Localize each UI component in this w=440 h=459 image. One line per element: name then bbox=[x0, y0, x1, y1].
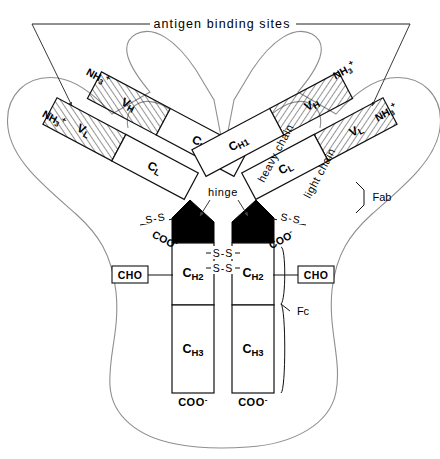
amino-terminus-right-heavy: NH3+ bbox=[330, 58, 359, 84]
outer-silhouette-path bbox=[8, 31, 440, 448]
hinge-ss-label-1: S-S bbox=[213, 247, 234, 259]
antibody-svg-canvas: antigen binding sites VL CL VH CH1 VH CH… bbox=[0, 0, 440, 459]
hinge-shape-right bbox=[232, 200, 274, 243]
hinge-ss-label-2: S-S bbox=[213, 262, 234, 274]
carboxyl-terminus-right-heavy: COO- bbox=[238, 395, 268, 408]
molecule-outline bbox=[8, 31, 440, 448]
fab-bracket-path bbox=[356, 182, 364, 213]
carbohydrate-right: CHO bbox=[273, 266, 334, 283]
coo-label-right-heavy: COO- bbox=[238, 395, 268, 408]
antigen-binding-sites-label: antigen binding sites bbox=[153, 17, 290, 31]
antibody-diagram-figure: antigen binding sites VL CL VH CH1 VH CH… bbox=[0, 0, 440, 459]
hinge-shape-left bbox=[172, 200, 214, 243]
carbohydrate-left: CHO bbox=[112, 266, 173, 283]
heavy-light-disulfide-left: S-S bbox=[140, 210, 173, 225]
abs-arrow-right bbox=[372, 24, 410, 106]
heavy-light-disulfide-right: S-S bbox=[273, 210, 306, 225]
hinge-label: hinge bbox=[208, 186, 238, 198]
nh3-label-right-heavy: NH3+ bbox=[330, 58, 359, 84]
carboxyl-terminus-left-heavy: COO- bbox=[178, 395, 208, 408]
fc-label: Fc bbox=[297, 305, 310, 317]
cho-label-right: CHO bbox=[304, 269, 329, 281]
cho-label-left: CHO bbox=[118, 269, 143, 281]
fab-bracket: Fab bbox=[356, 182, 391, 213]
fc-bracket-path bbox=[281, 247, 285, 393]
abs-arrow-left bbox=[32, 24, 72, 106]
coo-label-left-heavy: COO- bbox=[178, 395, 208, 408]
fab-label: Fab bbox=[373, 191, 392, 203]
